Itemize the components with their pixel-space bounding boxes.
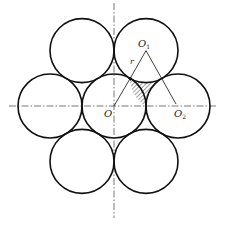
label-o2: O2 xyxy=(174,108,186,120)
label-r: r xyxy=(130,57,135,66)
label-o1: O1 xyxy=(138,38,150,50)
line-o1-o2 xyxy=(146,51,176,104)
radius-arrow-line xyxy=(114,77,131,106)
circle-bottom-left xyxy=(50,129,114,193)
circle-packing-diagram: O O1 O2 r xyxy=(0,0,225,227)
circle-bottom-right xyxy=(114,129,178,193)
label-o: O xyxy=(104,108,112,119)
circle-top-left xyxy=(50,19,114,83)
